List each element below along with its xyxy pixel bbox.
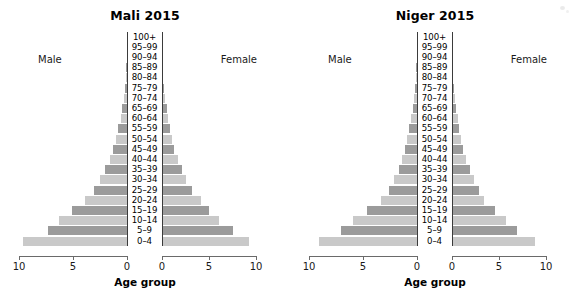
x-axis-tick-label: 10 — [303, 261, 316, 272]
male-axis-spine-mali — [127, 32, 128, 246]
x-axis-mali: Age group 10500510 — [0, 256, 290, 300]
female-axis-spine-niger — [452, 32, 453, 246]
age-group-label: 55–59 — [127, 123, 162, 134]
x-axis-tick-label: 0 — [159, 261, 165, 272]
pyramid-row: 55–59 — [290, 124, 580, 134]
female-bar — [452, 175, 474, 184]
x-axis-tick-label: 10 — [13, 261, 26, 272]
x-axis-tick-label: 0 — [124, 261, 130, 272]
male-bar — [407, 135, 417, 144]
scan-artifact — [566, 10, 569, 13]
pyramid-row: 40–44 — [290, 154, 580, 164]
pyramid-row: 15–19 — [0, 205, 290, 215]
pyramid-row: 55–59 — [0, 124, 290, 134]
age-group-label: 20–24 — [127, 195, 162, 206]
pyramid-row: 25–29 — [290, 185, 580, 195]
x-axis-tick — [546, 256, 547, 260]
male-bar — [341, 226, 417, 235]
pyramid-row: 90–94 — [0, 52, 290, 62]
age-group-label: 50–54 — [127, 134, 162, 145]
age-group-label: 60–64 — [127, 113, 162, 124]
x-axis-tick-label: 5 — [70, 261, 76, 272]
pyramid-row: 75–79 — [290, 83, 580, 93]
pyramid-row: 75–79 — [0, 83, 290, 93]
x-axis-tick — [452, 256, 453, 260]
age-group-label: 10–14 — [417, 215, 452, 226]
x-axis-title-niger: Age group — [290, 276, 580, 288]
pyramid-row: 95–99 — [290, 42, 580, 52]
female-bar — [162, 175, 186, 184]
x-axis-tick-label: 0 — [449, 261, 455, 272]
pyramid-row: 60–64 — [290, 114, 580, 124]
male-bar — [394, 175, 417, 184]
female-bar — [452, 226, 517, 235]
pyramid-row: 10–14 — [290, 216, 580, 226]
pyramid-row: 45–49 — [290, 144, 580, 154]
male-bar — [110, 155, 127, 164]
plot-area-mali: Male Female 0–45–910–1415–1920–2425–2930… — [0, 28, 290, 256]
female-bar — [162, 196, 201, 205]
x-axis-tick — [499, 256, 500, 260]
pyramid-row: 50–54 — [290, 134, 580, 144]
pyramid-row: 30–34 — [290, 175, 580, 185]
female-bar — [452, 206, 495, 215]
female-bar — [162, 216, 219, 225]
age-group-label: 10–14 — [127, 215, 162, 226]
female-bar — [162, 155, 178, 164]
x-axis-tick — [209, 256, 210, 260]
age-group-label: 20–24 — [417, 195, 452, 206]
female-bar — [452, 124, 459, 133]
female-bar — [162, 206, 209, 215]
male-bar — [319, 237, 417, 246]
pyramid-row: 25–29 — [0, 185, 290, 195]
pyramid-row: 70–74 — [290, 93, 580, 103]
age-group-label: 5–9 — [127, 225, 162, 236]
age-group-label: 80–84 — [417, 72, 452, 83]
pyramid-row: 10–14 — [0, 216, 290, 226]
pyramid-row: 40–44 — [0, 154, 290, 164]
male-bar — [48, 226, 127, 235]
pyramid-row: 50–54 — [0, 134, 290, 144]
female-bar — [452, 196, 484, 205]
age-group-label: 50–54 — [417, 134, 452, 145]
age-group-label: 45–49 — [417, 144, 452, 155]
male-bar — [85, 196, 127, 205]
age-group-label: 70–74 — [127, 93, 162, 104]
plot-area-niger: Male Female 0–45–910–1415–1920–2425–2930… — [290, 28, 580, 256]
x-axis-tick — [363, 256, 364, 260]
age-group-label: 60–64 — [417, 113, 452, 124]
female-bar — [162, 135, 172, 144]
age-group-label: 75–79 — [417, 83, 452, 94]
x-axis-niger: Age group 10500510 — [290, 256, 580, 300]
age-group-label: 55–59 — [417, 123, 452, 134]
population-pyramid-figure: Mali 2015 Male Female 0–45–910–1415–1920… — [0, 0, 580, 300]
pyramid-row: 85–89 — [290, 63, 580, 73]
female-bar — [452, 165, 470, 174]
female-bar — [452, 237, 535, 246]
age-group-label: 0–4 — [127, 236, 162, 247]
male-bar — [113, 145, 127, 154]
pyramid-row: 100+ — [0, 32, 290, 42]
age-group-label: 0–4 — [417, 236, 452, 247]
x-axis-title-mali: Age group — [0, 276, 290, 288]
age-group-label: 25–29 — [127, 185, 162, 196]
x-axis-tick — [19, 256, 20, 260]
x-axis-tick — [256, 256, 257, 260]
age-group-label: 70–74 — [417, 93, 452, 104]
male-bar — [100, 175, 127, 184]
male-bar — [353, 216, 417, 225]
x-axis-tick-label: 5 — [206, 261, 212, 272]
female-bar — [452, 186, 479, 195]
age-group-label: 35–39 — [417, 164, 452, 175]
age-group-label: 85–89 — [127, 62, 162, 73]
male-bar — [116, 135, 127, 144]
pyramid-row: 5–9 — [290, 226, 580, 236]
age-group-label: 65–69 — [127, 103, 162, 114]
x-axis-tick — [162, 256, 163, 260]
chart-panel-niger: Niger 2015 Male Female 0–45–910–1415–192… — [290, 0, 580, 300]
female-bar — [452, 155, 466, 164]
chart-panel-mali: Mali 2015 Male Female 0–45–910–1415–1920… — [0, 0, 290, 300]
male-bar — [409, 124, 417, 133]
age-group-label: 75–79 — [127, 83, 162, 94]
pyramid-row: 100+ — [290, 32, 580, 42]
